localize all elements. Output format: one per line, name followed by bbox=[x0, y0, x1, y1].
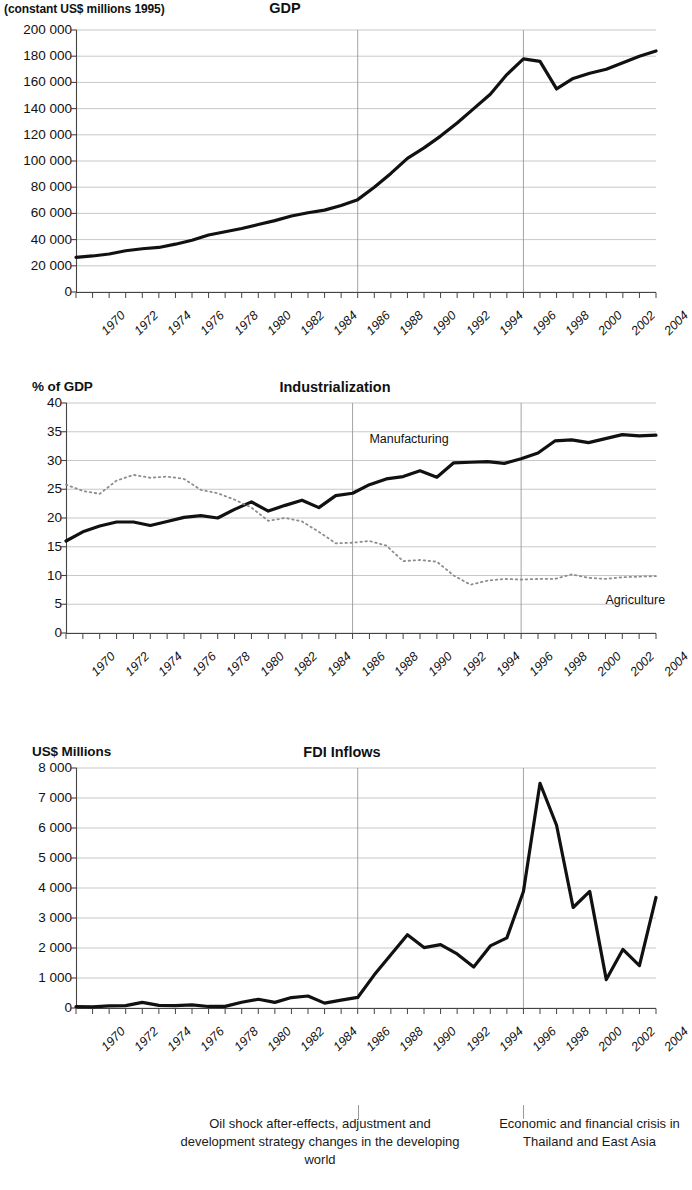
x-tick-label: 1996 bbox=[527, 650, 556, 679]
x-tick-label: 2004 bbox=[663, 1025, 692, 1054]
x-tick-label: 2004 bbox=[663, 309, 692, 338]
x-tick-label: 1982 bbox=[291, 650, 320, 679]
x-tick-label: 1996 bbox=[530, 1025, 559, 1054]
y-tick-label: 5 000 bbox=[38, 851, 72, 865]
x-tick-label: 1972 bbox=[132, 1025, 161, 1054]
gdp-y-tick-labels: 020 00040 00060 00080 000100 000120 0001… bbox=[0, 30, 72, 292]
y-tick-label: 5 bbox=[54, 598, 62, 612]
y-tick-label: 20 000 bbox=[31, 259, 72, 273]
y-tick-label: 0 bbox=[54, 626, 62, 640]
industrialization-y-tick-labels: 0510152025303540 bbox=[0, 403, 62, 633]
x-tick-label: 1982 bbox=[298, 309, 327, 338]
x-tick-label: 1994 bbox=[497, 309, 526, 338]
y-tick-label: 15 bbox=[47, 540, 62, 554]
y-tick-label: 4 000 bbox=[38, 881, 72, 895]
y-tick-label: 40 000 bbox=[31, 233, 72, 247]
x-tick-label: 1980 bbox=[265, 309, 294, 338]
x-tick-label: 1988 bbox=[397, 309, 426, 338]
x-tick-label: 1980 bbox=[258, 650, 287, 679]
x-tick-label: 2000 bbox=[596, 309, 625, 338]
data-series-manufacturing bbox=[66, 435, 656, 541]
x-tick-label: 1978 bbox=[224, 650, 253, 679]
y-tick-label: 25 bbox=[47, 483, 62, 497]
annotation-oil-shock: Oil shock after-effects, adjustment and … bbox=[175, 1115, 465, 1169]
y-tick-label: 100 000 bbox=[23, 154, 72, 168]
x-tick-label: 1970 bbox=[89, 650, 118, 679]
x-tick-label: 1992 bbox=[460, 650, 489, 679]
data-series-gdp bbox=[76, 51, 656, 257]
x-tick-label: 1992 bbox=[464, 309, 493, 338]
gdp-y-axis-caption: (constant US$ millions 1995) bbox=[4, 2, 165, 16]
x-tick-label: 1984 bbox=[325, 650, 354, 679]
y-tick-label: 7 000 bbox=[38, 791, 72, 805]
x-tick-label: 2002 bbox=[629, 309, 658, 338]
series-label-manufacturing: Manufacturing bbox=[369, 432, 448, 446]
y-tick-label: 2 000 bbox=[38, 941, 72, 955]
gdp-panel: (constant US$ millions 1995) GDP 020 000… bbox=[0, 0, 670, 370]
annotation-asian-crisis: Economic and financial crisis in Thailan… bbox=[487, 1115, 692, 1151]
x-tick-label: 1994 bbox=[494, 650, 523, 679]
x-tick-label: 2000 bbox=[596, 1025, 625, 1054]
x-tick-label: 1996 bbox=[530, 309, 559, 338]
y-tick-label: 1 000 bbox=[38, 971, 72, 985]
x-tick-label: 1972 bbox=[132, 309, 161, 338]
x-tick-label: 1986 bbox=[364, 1025, 393, 1054]
data-series-fdi-inflows bbox=[76, 783, 656, 1007]
x-tick-label: 1976 bbox=[190, 650, 219, 679]
x-tick-label: 1992 bbox=[464, 1025, 493, 1054]
x-tick-label: 1990 bbox=[426, 650, 455, 679]
x-tick-label: 1998 bbox=[563, 1025, 592, 1054]
y-tick-label: 120 000 bbox=[23, 128, 72, 142]
gdp-plot-area bbox=[76, 30, 656, 292]
y-tick-label: 80 000 bbox=[31, 180, 72, 194]
y-tick-label: 30 bbox=[47, 454, 62, 468]
x-tick-label: 1998 bbox=[563, 309, 592, 338]
x-tick-label: 1986 bbox=[364, 309, 393, 338]
y-tick-label: 35 bbox=[47, 425, 62, 439]
x-tick-label: 2000 bbox=[595, 650, 624, 679]
x-tick-label: 1988 bbox=[393, 650, 422, 679]
x-tick-label: 1976 bbox=[199, 1025, 228, 1054]
industrialization-svg bbox=[66, 403, 656, 647]
data-series-agriculture bbox=[66, 475, 656, 585]
x-tick-label: 1976 bbox=[199, 309, 228, 338]
x-tick-label: 1972 bbox=[123, 650, 152, 679]
x-tick-label: 1984 bbox=[331, 1025, 360, 1054]
x-tick-label: 1974 bbox=[157, 650, 186, 679]
y-tick-label: 20 bbox=[47, 511, 62, 525]
y-tick-label: 60 000 bbox=[31, 207, 72, 221]
fdi-x-tick-labels: 1970197219741976197819801982198419861988… bbox=[76, 1016, 656, 1076]
y-tick-label: 0 bbox=[64, 285, 72, 299]
industrialization-x-tick-labels: 1970197219741976197819801982198419861988… bbox=[66, 641, 656, 701]
fdi-svg bbox=[76, 768, 656, 1022]
x-tick-label: 1978 bbox=[232, 309, 261, 338]
x-tick-label: 1978 bbox=[232, 1025, 261, 1054]
x-tick-label: 1990 bbox=[431, 1025, 460, 1054]
x-tick-label: 1980 bbox=[265, 1025, 294, 1054]
y-tick-label: 140 000 bbox=[23, 102, 72, 116]
fdi-panel: US$ Millions FDI Inflows 01 0002 0003 00… bbox=[0, 740, 670, 1110]
y-tick-label: 8 000 bbox=[38, 761, 72, 775]
x-tick-label: 1970 bbox=[99, 309, 128, 338]
x-tick-label: 1994 bbox=[497, 1025, 526, 1054]
x-tick-label: 1984 bbox=[331, 309, 360, 338]
x-tick-label: 2002 bbox=[629, 650, 658, 679]
y-tick-label: 6 000 bbox=[38, 821, 72, 835]
gdp-svg bbox=[76, 30, 656, 306]
x-tick-label: 1990 bbox=[431, 309, 460, 338]
series-label-agriculture: Agriculture bbox=[605, 593, 665, 607]
industrialization-plot-area bbox=[66, 403, 656, 633]
y-tick-label: 10 bbox=[47, 569, 62, 583]
x-tick-label: 1974 bbox=[165, 1025, 194, 1054]
x-tick-label: 2002 bbox=[629, 1025, 658, 1054]
industrialization-y-axis-caption: % of GDP bbox=[32, 379, 93, 394]
x-tick-label: 1988 bbox=[397, 1025, 426, 1054]
fdi-y-tick-labels: 01 0002 0003 0004 0005 0006 0007 0008 00… bbox=[0, 768, 72, 1008]
x-tick-label: 1974 bbox=[165, 309, 194, 338]
x-tick-label: 1986 bbox=[359, 650, 388, 679]
annotation-row: Oil shock after-effects, adjustment and … bbox=[0, 1105, 670, 1190]
fdi-y-axis-caption: US$ Millions bbox=[32, 744, 111, 759]
fdi-chart-title: FDI Inflows bbox=[262, 744, 422, 760]
fdi-plot-area bbox=[76, 768, 656, 1008]
